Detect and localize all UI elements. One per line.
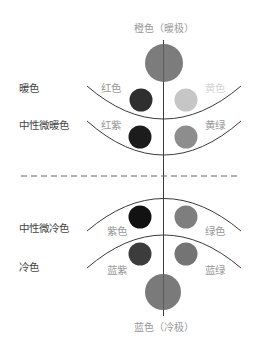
circle-yellow xyxy=(175,89,198,112)
label-red: 红色 xyxy=(101,82,121,94)
circle-blue-violet xyxy=(129,243,152,266)
circle-blue-green xyxy=(175,243,198,266)
label-yellow-green: 黄绿 xyxy=(205,119,225,131)
circle-blue-cool-pole xyxy=(145,274,181,310)
label-blue-green: 蓝绿 xyxy=(205,264,225,276)
circle-orange-warm-pole xyxy=(145,44,183,82)
label-cool: 冷色 xyxy=(19,261,39,273)
circle-yellow-green xyxy=(175,126,198,149)
label-red-violet: 红紫 xyxy=(101,119,121,131)
label-blue-violet: 蓝紫 xyxy=(107,264,127,276)
circle-red-violet xyxy=(129,126,152,149)
label-neutral-cool: 中性微冷色 xyxy=(19,222,69,234)
label-green: 绿色 xyxy=(205,225,225,237)
label-neutral-warm: 中性微暖色 xyxy=(19,119,69,131)
circle-green xyxy=(175,206,198,229)
circle-red xyxy=(130,89,153,112)
label-warm: 暖色 xyxy=(19,82,39,94)
label-orange-warm-pole: 橙色（暖极） xyxy=(134,23,194,35)
label-violet: 紫色 xyxy=(107,225,127,237)
label-yellow: 黄色 xyxy=(205,82,225,94)
circle-violet xyxy=(129,206,152,229)
color-temperature-diagram xyxy=(0,0,259,352)
label-blue-cool-pole: 蓝色（冷极） xyxy=(134,322,194,334)
